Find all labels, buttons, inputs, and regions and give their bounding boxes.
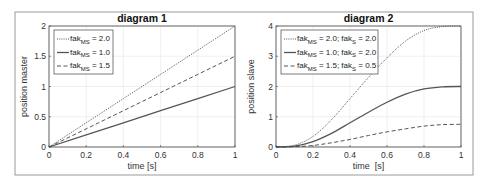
x-tick-label: 0.2 [307, 150, 319, 160]
y-tick-label: 2 [268, 82, 273, 92]
x-tick-label: 0.2 [80, 150, 92, 160]
y-tick-label: 2 [41, 21, 46, 31]
x-tick-label: 0 [47, 150, 52, 160]
y-tick-label: 0 [268, 142, 273, 152]
x-tick-label: 0.8 [418, 150, 430, 160]
x-tick-label: 0.8 [192, 150, 204, 160]
x-tick-label: 1 [233, 150, 238, 160]
x-tick-label: 0 [274, 150, 279, 160]
legend-diagram-1: fakMS = 2.0fakMS = 1.0fakMS = 1.5 [54, 30, 113, 74]
y-tick-label: 0 [41, 142, 46, 152]
y-axis-label-diagram-2: position slave [246, 59, 256, 114]
legend-entry-1: fakMS = 2.0 [70, 34, 110, 45]
y-tick-label: 1 [268, 112, 273, 122]
y-tick-label: 1.5 [34, 51, 46, 61]
x-tick-label: 1 [459, 150, 464, 160]
x-tick-label: 0.4 [117, 150, 129, 160]
legend-entry-3: fakMS = 1.5 [70, 61, 110, 72]
y-tick-label: 3 [268, 51, 273, 61]
figure: 00.20.40.60.8100.511.52 diagram 1 time [… [0, 0, 484, 187]
y-axis-label-diagram-1: position master [19, 56, 29, 117]
chart-title-diagram-2: diagram 2 [344, 12, 394, 24]
legend-entry-2: fakMS = 1.0 [70, 48, 110, 59]
x-axis-label-diagram-1: time [s] [127, 161, 156, 171]
y-tick-label: 4 [268, 21, 273, 31]
x-tick-label: 0.6 [155, 150, 167, 160]
x-axis-label-diagram-2: time [s] [353, 161, 385, 171]
x-tick-label: 0.4 [344, 150, 356, 160]
y-tick-label: 1 [41, 82, 46, 92]
y-tick-label: 0.5 [34, 112, 46, 122]
legend-diagram-2: fakMS = 2.0; fakS = 2.0fakMS = 1.0; fakS… [281, 30, 378, 74]
x-tick-label: 0.6 [381, 150, 393, 160]
chart-title-diagram-1: diagram 1 [117, 12, 167, 24]
